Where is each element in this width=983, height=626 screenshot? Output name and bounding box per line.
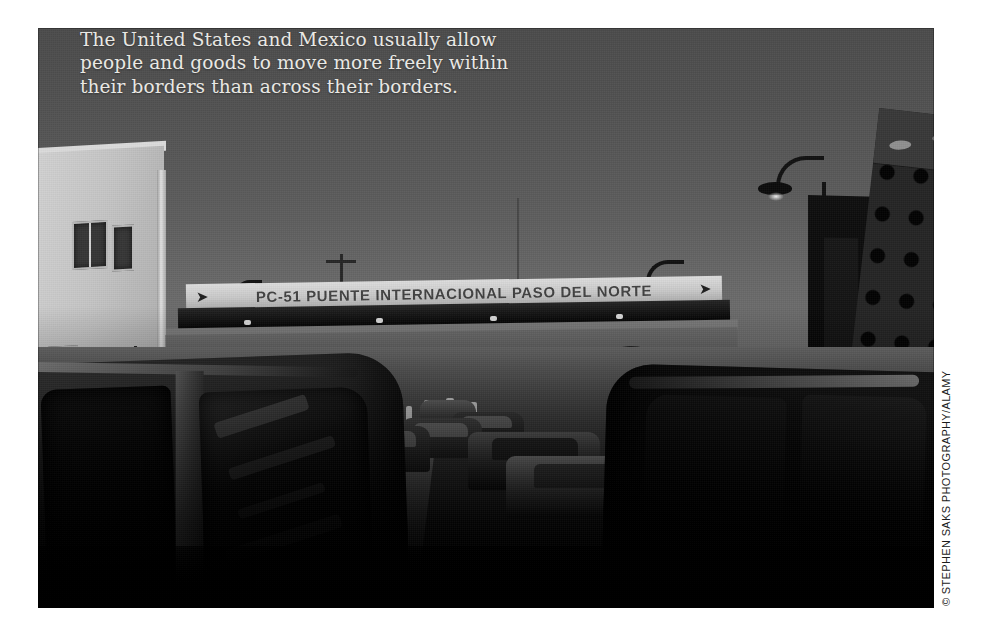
building-window xyxy=(112,224,134,271)
textbook-page: · ┐ · ◦ • · ● · │ · xyxy=(0,0,983,626)
bird-silhouette-icon: ➤ xyxy=(699,282,712,297)
utility-pole-crossarm xyxy=(326,260,356,263)
border-crossing-photograph: ➤ PC-51 PUENTE INTERNACIONAL PASO DEL NO… xyxy=(38,28,934,608)
bird-silhouette-icon: ➤ xyxy=(196,290,209,305)
building-window xyxy=(72,220,108,270)
margin-mark: ┐ xyxy=(0,206,1,215)
caption-line: their borders than across their borders. xyxy=(80,75,600,98)
caption-line: The United States and Mexico usually all… xyxy=(80,28,600,51)
caption-line: people and goods to move more freely wit… xyxy=(80,51,600,74)
left-margin-marks: · ┐ · ◦ • · ● · │ · xyxy=(0,150,12,550)
photo-credit: © STEPHEN SAKS PHOTOGRAPHY/ALAMY xyxy=(940,246,952,606)
foreground-shadow xyxy=(38,546,934,608)
photo-caption: The United States and Mexico usually all… xyxy=(80,28,600,98)
margin-mark: │ xyxy=(0,486,1,495)
